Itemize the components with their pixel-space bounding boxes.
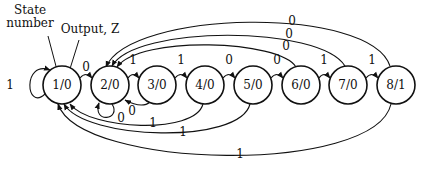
svg-text:0: 0 [285,27,293,41]
edge-6-to-2: 0 [117,39,296,67]
svg-text:7/0: 7/0 [338,78,357,92]
state-node-1: 1/0 [43,66,81,104]
edge-2-self-loop: 0 [98,103,125,125]
svg-text:0: 0 [225,53,233,67]
svg-text:0: 0 [288,14,296,28]
svg-text:3/0: 3/0 [147,78,166,92]
state-node-5: 5/0 [234,66,272,104]
svg-text:1: 1 [368,53,376,67]
annotation-output: Output, Z [61,22,120,72]
state-diagram: State number Output, Z 0 1 1 0 0 1 1 1 [0,0,429,171]
state-node-3: 3/0 [138,66,176,104]
svg-text:1: 1 [149,116,157,130]
svg-text:0: 0 [117,111,125,125]
edge-8-to-1: 1 [58,104,391,161]
edge-3-to-4: 1 [175,53,187,78]
svg-text:0: 0 [128,104,136,118]
state-node-2: 2/0 [91,66,129,104]
edge-7-to-8: 1 [366,53,378,78]
svg-text:8/1: 8/1 [386,78,405,92]
svg-text:6/0: 6/0 [291,78,310,92]
edge-1-to-2: 0 [80,60,92,78]
edge-6-to-7: 1 [319,53,330,78]
svg-text:2/0: 2/0 [100,78,119,92]
svg-text:1: 1 [236,147,244,161]
svg-text:1: 1 [179,125,187,139]
annotation-state-number: State number [6,3,57,70]
svg-text:5/0: 5/0 [243,78,262,92]
edge-3-to-2: 0 [125,100,150,118]
svg-text:4/0: 4/0 [195,78,214,92]
state-label-line2: number [6,16,54,30]
svg-text:1: 1 [177,53,185,67]
edge-4-to-5: 0 [223,53,235,78]
svg-text:0: 0 [282,39,290,53]
state-label-line1: State [14,3,46,17]
state-node-6: 6/0 [282,66,320,104]
edge-8-to-2: 0 [106,14,390,67]
svg-text:1: 1 [6,78,14,92]
svg-text:1: 1 [320,53,328,67]
output-label: Output, Z [61,22,120,36]
state-node-4: 4/0 [186,66,224,104]
svg-text:1/0: 1/0 [52,78,71,92]
svg-text:0: 0 [82,60,90,74]
state-pointer-line [48,36,57,70]
state-node-7: 7/0 [329,66,367,104]
state-node-8: 8/1 [377,66,415,104]
